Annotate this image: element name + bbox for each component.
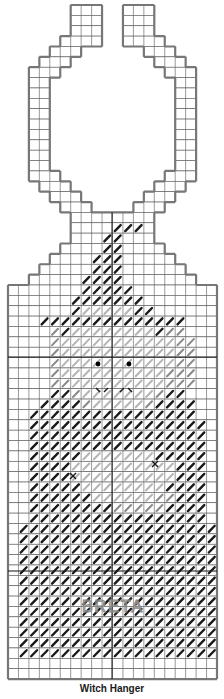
- witch-hanger-chart: BRETA: [0, 0, 224, 684]
- backstitch-lettering: BRETA: [82, 598, 144, 615]
- eye-dot: [127, 362, 132, 367]
- eye-dot: [96, 362, 101, 367]
- chart-caption: Witch Hanger: [0, 683, 224, 694]
